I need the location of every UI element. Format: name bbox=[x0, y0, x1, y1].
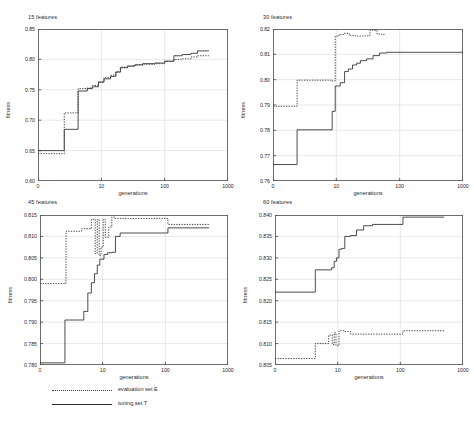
ytick-label-2-6: 0.810 bbox=[13, 233, 37, 239]
series-tuning-1 bbox=[273, 52, 463, 164]
xaxis-title-3: generations bbox=[339, 374, 399, 380]
plot-area-2 bbox=[40, 215, 228, 365]
series-tuning-3 bbox=[275, 217, 444, 292]
ytick-label-3-7: 0.840 bbox=[248, 212, 272, 218]
ytick-label-1-6: 0.82 bbox=[246, 26, 270, 32]
xtick-label-3-0: 0 bbox=[263, 367, 287, 373]
plot-area-1 bbox=[273, 29, 463, 181]
ytick-label-1-5: 0.81 bbox=[246, 51, 270, 57]
xtick-label-1-3: 1000 bbox=[451, 183, 474, 189]
xtick-label-0-0: 0 bbox=[26, 183, 50, 189]
xtick-label-1-2: 100 bbox=[388, 183, 412, 189]
xtick-label-1-1: 10 bbox=[324, 183, 348, 189]
ytick-label-1-4: 0.80 bbox=[246, 77, 270, 83]
ytick-label-2-1: 0.785 bbox=[13, 341, 37, 347]
ytick-label-1-2: 0.78 bbox=[246, 127, 270, 133]
plot-area-0 bbox=[38, 29, 228, 181]
yaxis-title-2: fitness bbox=[7, 287, 13, 303]
series-tuning-0 bbox=[38, 51, 209, 151]
yaxis-title-1: fitness bbox=[240, 102, 246, 118]
legend-item-1: tuning set T bbox=[52, 400, 242, 410]
ytick-label-1-1: 0.77 bbox=[246, 153, 270, 159]
xtick-label-2-1: 10 bbox=[91, 367, 115, 373]
series-tuning-2 bbox=[40, 228, 209, 363]
panel-title-2: 45 features bbox=[28, 199, 57, 205]
xtick-label-0-1: 10 bbox=[89, 183, 113, 189]
yaxis-title-0: fitness bbox=[5, 102, 11, 118]
panel-title-3: 60 features bbox=[263, 199, 292, 205]
figure-canvas: 15 features0.600.650.700.750.800.8501010… bbox=[0, 0, 474, 421]
xtick-label-2-2: 100 bbox=[153, 367, 177, 373]
ytick-label-2-5: 0.805 bbox=[13, 255, 37, 261]
legend-label-0: evaluation set E bbox=[118, 386, 158, 392]
ytick-label-0-5: 0.85 bbox=[11, 26, 35, 32]
xaxis-title-0: generations bbox=[103, 190, 163, 196]
ytick-label-1-3: 0.79 bbox=[246, 102, 270, 108]
ytick-label-0-3: 0.75 bbox=[11, 87, 35, 93]
xtick-label-3-3: 1000 bbox=[451, 367, 474, 373]
series-evaluation-0 bbox=[38, 56, 209, 154]
ytick-label-2-4: 0.800 bbox=[13, 276, 37, 282]
xaxis-title-1: generations bbox=[338, 190, 398, 196]
ytick-label-3-3: 0.820 bbox=[248, 298, 272, 304]
xtick-label-2-3: 1000 bbox=[216, 367, 240, 373]
ytick-label-0-2: 0.70 bbox=[11, 117, 35, 123]
series-evaluation-2 bbox=[40, 217, 209, 283]
plot-area-3 bbox=[275, 215, 463, 365]
ytick-label-0-4: 0.80 bbox=[11, 56, 35, 62]
xtick-label-3-1: 10 bbox=[326, 367, 350, 373]
ytick-label-2-7: 0.815 bbox=[13, 212, 37, 218]
legend-swatch-dotted bbox=[52, 390, 112, 393]
ytick-label-2-2: 0.790 bbox=[13, 319, 37, 325]
ytick-label-3-1: 0.810 bbox=[248, 341, 272, 347]
xtick-label-0-2: 100 bbox=[153, 183, 177, 189]
ytick-label-3-6: 0.835 bbox=[248, 233, 272, 239]
xaxis-title-2: generations bbox=[104, 374, 164, 380]
series-evaluation-1 bbox=[273, 30, 386, 106]
legend-swatch-solid bbox=[52, 404, 112, 407]
xtick-label-2-0: 0 bbox=[28, 367, 52, 373]
xtick-label-0-3: 1000 bbox=[216, 183, 240, 189]
xtick-label-3-2: 100 bbox=[388, 367, 412, 373]
panel-title-0: 15 features bbox=[28, 14, 57, 20]
ytick-label-3-4: 0.825 bbox=[248, 276, 272, 282]
legend-label-1: tuning set T bbox=[118, 400, 147, 406]
xtick-label-1-0: 0 bbox=[261, 183, 285, 189]
ytick-label-3-2: 0.815 bbox=[248, 319, 272, 325]
series-evaluation-3 bbox=[275, 331, 444, 359]
yaxis-title-3: fitness bbox=[242, 287, 248, 303]
ytick-label-3-5: 0.830 bbox=[248, 255, 272, 261]
ytick-label-0-1: 0.65 bbox=[11, 148, 35, 154]
ytick-label-2-3: 0.795 bbox=[13, 298, 37, 304]
legend-item-0: evaluation set E bbox=[52, 386, 242, 396]
panel-title-1: 30 features bbox=[263, 14, 292, 20]
